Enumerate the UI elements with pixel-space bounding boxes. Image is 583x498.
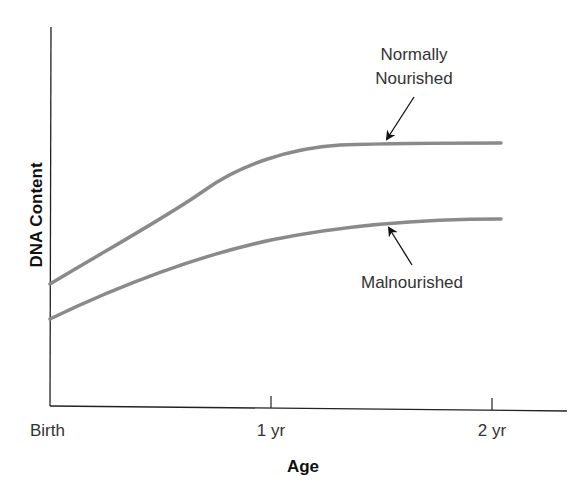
arrow-normally-nourished (387, 97, 414, 139)
arrow-malnourished (389, 228, 412, 265)
x-tick-label-2yr: 2 yr (478, 421, 507, 440)
chart-canvas: Normally Nourished Malnourished Birth 1 … (0, 0, 583, 498)
x-tick-label-1yr: 1 yr (257, 421, 286, 440)
y-axis-title: DNA Content (27, 162, 46, 267)
series-malnourished (50, 219, 501, 319)
series-normally-nourished (50, 143, 501, 284)
x-tick-label-birth: Birth (30, 421, 65, 440)
annotation-normally-nourished-line2: Nourished (375, 69, 453, 88)
x-axis-title: Age (287, 457, 319, 476)
annotation-malnourished: Malnourished (361, 273, 463, 292)
annotation-normally-nourished-line1: Normally (380, 45, 448, 64)
y-axis (50, 27, 51, 406)
x-axis (50, 406, 567, 411)
